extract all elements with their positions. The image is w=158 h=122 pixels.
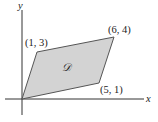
x-axis-label: x xyxy=(145,93,151,104)
y-axis-label: y xyxy=(17,0,23,11)
diagram-canvas: y x 𝒟 (1, 3) (6, 4) (5, 1) xyxy=(0,0,158,122)
vertex-label-5-1: (5, 1) xyxy=(100,84,123,96)
vertex-label-6-4: (6, 4) xyxy=(108,24,131,36)
vertex-label-1-3: (1, 3) xyxy=(25,37,48,49)
